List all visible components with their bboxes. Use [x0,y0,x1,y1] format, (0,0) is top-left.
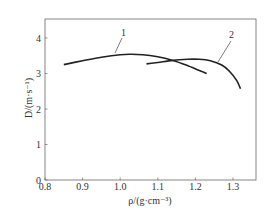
x-tick-label: 1.2 [189,181,202,192]
plot-frame [45,19,256,180]
data-series [64,54,241,89]
curve-label-2: 2 [229,29,234,40]
x-tick-label: 1.3 [227,181,240,192]
y-tick-label: 3 [36,68,41,79]
x-tick-label: 1.1 [152,181,165,192]
x-tick-label: 0.9 [76,181,89,192]
chart: 0.80.91.01.11.21.3 01234 1 2 ρ/(g·cm⁻³) … [0,0,268,216]
y-tick-label: 2 [36,104,41,115]
x-tick-label: 1.0 [114,181,127,192]
series-line-2 [147,59,241,89]
leader-line-1 [115,38,122,53]
y-axis-title: D/(m·s⁻¹) [23,78,35,118]
curve-label-1: 1 [121,27,126,38]
y-tick-label: 0 [36,175,41,186]
y-tick-label: 4 [36,33,41,44]
leader-line-2 [218,41,231,62]
y-tick-label: 1 [36,139,41,150]
y-axis-ticks: 01234 [36,33,48,186]
series-line-1 [64,54,207,73]
x-axis-title: ρ/(g·cm⁻³) [128,195,171,207]
annotations: 1 2 [115,27,234,62]
